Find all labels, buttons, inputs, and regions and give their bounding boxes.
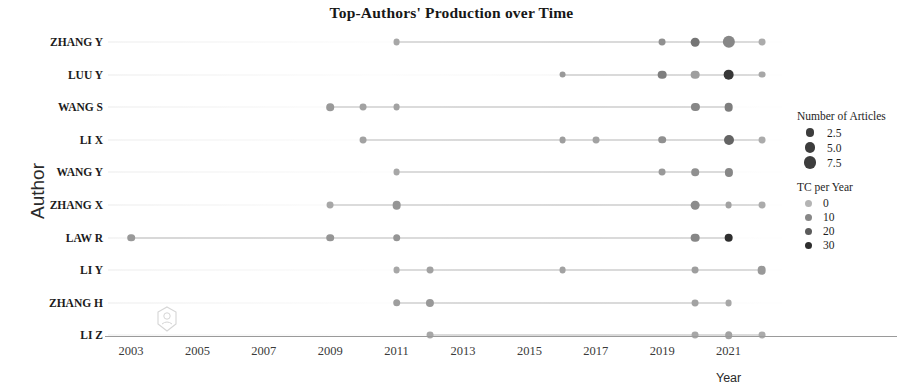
data-point[interactable] — [723, 69, 734, 80]
legend-dot-icon — [797, 128, 823, 137]
legend-dot-icon — [797, 214, 819, 221]
plot-area: ZHANG YLUU YWANG SLI XWANG YZHANG XLAW R… — [0, 0, 903, 389]
data-point[interactable] — [393, 169, 400, 176]
size-legend-row: 2.5 — [797, 125, 903, 140]
data-point[interactable] — [559, 267, 566, 274]
data-point[interactable] — [758, 202, 765, 209]
data-point[interactable] — [691, 70, 700, 79]
data-point[interactable] — [692, 299, 699, 306]
data-point[interactable] — [725, 168, 733, 176]
data-point[interactable] — [393, 104, 400, 111]
chart-root: Top-Authors' Production over Time Author… — [0, 0, 903, 389]
author-name: LI X — [80, 134, 103, 146]
size-legend-entries: 2.55.07.5 — [797, 125, 903, 170]
data-point[interactable] — [393, 267, 400, 274]
data-point[interactable] — [360, 104, 367, 111]
color-legend-title: TC per Year — [797, 181, 903, 193]
legend-dot-icon — [797, 228, 819, 235]
x-tick-label: 2019 — [637, 344, 687, 359]
chart-legend: Number of Articles 2.55.07.5 TC per Year… — [797, 110, 903, 252]
author-timeline-line — [397, 270, 762, 271]
data-point[interactable] — [691, 103, 699, 111]
data-point[interactable] — [559, 71, 566, 78]
x-tick-label: 2009 — [305, 344, 355, 359]
data-point[interactable] — [725, 299, 732, 306]
size-legend-title: Number of Articles — [797, 110, 903, 122]
data-point[interactable] — [725, 202, 732, 209]
x-tick-label: 2017 — [571, 344, 621, 359]
legend-label: 7.5 — [823, 157, 841, 169]
data-point[interactable] — [724, 103, 733, 112]
data-point[interactable] — [659, 39, 666, 46]
author-name: ZHANG H — [49, 297, 103, 309]
author-name: ZHANG Y — [50, 36, 103, 48]
author-name: WANG S — [58, 101, 103, 113]
data-point[interactable] — [659, 169, 666, 176]
legend-dot-icon — [797, 156, 823, 168]
data-point[interactable] — [393, 39, 400, 46]
color-legend-entries: 0102030 — [797, 196, 903, 252]
data-point[interactable] — [326, 103, 334, 111]
author-timeline-line — [330, 107, 728, 108]
legend-label: 2.5 — [823, 127, 841, 139]
data-point[interactable] — [658, 136, 666, 144]
author-name: ZHANG X — [50, 199, 103, 211]
data-point[interactable] — [692, 267, 699, 274]
data-point[interactable] — [691, 38, 700, 47]
data-point[interactable] — [724, 233, 733, 242]
legend-label: 5.0 — [823, 142, 841, 154]
data-point[interactable] — [127, 234, 135, 242]
data-point[interactable] — [426, 299, 434, 307]
author-name: LUU Y — [68, 69, 103, 81]
data-point[interactable] — [692, 169, 700, 177]
x-tick-label: 2011 — [372, 344, 422, 359]
x-axis-title: Year — [705, 371, 753, 385]
data-point[interactable] — [426, 267, 433, 274]
data-point[interactable] — [758, 136, 765, 143]
data-point[interactable] — [722, 36, 734, 48]
x-tick-label: 2021 — [704, 344, 754, 359]
data-point[interactable] — [360, 136, 367, 143]
author-timeline-line — [397, 42, 762, 43]
size-legend-row: 5.0 — [797, 140, 903, 155]
data-point[interactable] — [559, 136, 566, 143]
legend-label: 0 — [819, 197, 829, 209]
x-tick-label: 2007 — [239, 344, 289, 359]
data-point[interactable] — [691, 201, 700, 210]
color-legend-row: 30 — [797, 238, 903, 252]
data-point[interactable] — [758, 71, 765, 78]
x-axis-line — [105, 336, 897, 337]
author-name: LI Z — [80, 329, 103, 341]
data-point[interactable] — [757, 266, 766, 275]
author-name: LAW R — [66, 232, 103, 244]
color-legend-row: 20 — [797, 224, 903, 238]
author-timeline-line — [397, 172, 729, 173]
legend-dot-icon — [797, 200, 819, 207]
color-legend-row: 10 — [797, 210, 903, 224]
data-point[interactable] — [658, 70, 667, 79]
data-point[interactable] — [393, 299, 401, 307]
x-tick-label: 2005 — [172, 344, 222, 359]
legend-label: 10 — [819, 211, 835, 223]
author-name: LI Y — [80, 264, 103, 276]
x-tick-label: 2003 — [106, 344, 156, 359]
author-timeline-line — [397, 302, 729, 303]
data-point[interactable] — [393, 234, 401, 242]
author-name: WANG Y — [56, 166, 103, 178]
data-point[interactable] — [724, 135, 734, 145]
x-tick-label: 2015 — [504, 344, 554, 359]
author-timeline-line — [131, 237, 729, 238]
color-legend-row: 0 — [797, 196, 903, 210]
size-legend-row: 7.5 — [797, 155, 903, 170]
x-tick-label: 2013 — [438, 344, 488, 359]
data-point[interactable] — [691, 233, 700, 242]
data-point[interactable] — [592, 136, 599, 143]
data-point[interactable] — [392, 201, 401, 210]
legend-dot-icon — [797, 142, 823, 153]
data-point[interactable] — [327, 202, 334, 209]
legend-label: 30 — [819, 239, 835, 251]
data-point[interactable] — [758, 39, 765, 46]
data-point[interactable] — [326, 234, 334, 242]
legend-label: 20 — [819, 225, 835, 237]
legend-dot-icon — [797, 242, 819, 249]
